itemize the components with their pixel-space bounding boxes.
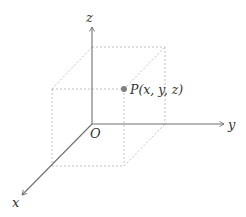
- y-axis-label: y: [227, 117, 236, 132]
- coordinate-diagram: z y x O P(x, y, z): [0, 0, 246, 217]
- point-p-label: P(x, y, z): [129, 82, 183, 97]
- origin-label: O: [90, 126, 101, 141]
- point-p-marker: [121, 86, 127, 92]
- x-axis-label: x: [12, 195, 20, 210]
- z-axis-label: z: [85, 10, 93, 25]
- x-axis: [22, 124, 92, 195]
